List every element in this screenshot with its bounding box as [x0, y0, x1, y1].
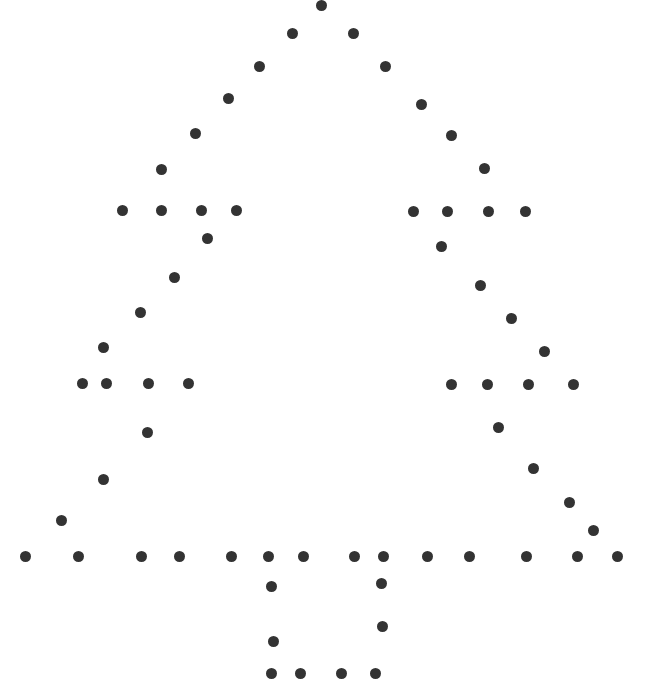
- scatter-dot: [378, 551, 389, 562]
- scatter-dot: [156, 164, 167, 175]
- scatter-dot: [521, 551, 532, 562]
- scatter-dot: [156, 205, 167, 216]
- scatter-dot: [77, 378, 88, 389]
- scatter-dot: [169, 272, 180, 283]
- scatter-dot: [422, 551, 433, 562]
- scatter-dot: [98, 342, 109, 353]
- scatter-dot: [416, 99, 427, 110]
- scatter-dot: [564, 497, 575, 508]
- scatter-dot: [349, 551, 360, 562]
- scatter-dot: [223, 93, 234, 104]
- scatter-dot: [464, 551, 475, 562]
- scatter-dot: [446, 130, 457, 141]
- scatter-dot: [408, 206, 419, 217]
- scatter-dot: [348, 28, 359, 39]
- scatter-dot: [190, 128, 201, 139]
- scatter-dot: [316, 0, 327, 11]
- scatter-dot: [254, 61, 265, 72]
- scatter-dot: [266, 581, 277, 592]
- scatter-dot: [143, 378, 154, 389]
- scatter-dot: [588, 525, 599, 536]
- scatter-dot: [523, 379, 534, 390]
- scatter-dot: [612, 551, 623, 562]
- scatter-dot: [287, 28, 298, 39]
- scatter-dot: [506, 313, 517, 324]
- scatter-dot: [568, 379, 579, 390]
- scatter-dot: [528, 463, 539, 474]
- scatter-dot: [142, 427, 153, 438]
- scatter-dot: [370, 668, 381, 679]
- dot-pattern-canvas: [0, 0, 665, 691]
- scatter-dot: [268, 636, 279, 647]
- scatter-dot: [226, 551, 237, 562]
- scatter-dot: [520, 206, 531, 217]
- scatter-dot: [231, 205, 242, 216]
- scatter-dot: [298, 551, 309, 562]
- scatter-dot: [572, 551, 583, 562]
- scatter-dot: [263, 551, 274, 562]
- scatter-dot: [479, 163, 490, 174]
- scatter-dot: [266, 668, 277, 679]
- scatter-dot: [446, 379, 457, 390]
- scatter-dot: [376, 578, 387, 589]
- scatter-dot: [98, 474, 109, 485]
- scatter-dot: [56, 515, 67, 526]
- scatter-dot: [380, 61, 391, 72]
- scatter-dot: [174, 551, 185, 562]
- scatter-dot: [475, 280, 486, 291]
- scatter-dot: [136, 551, 147, 562]
- scatter-dot: [20, 551, 31, 562]
- scatter-dot: [493, 422, 504, 433]
- scatter-dot: [73, 551, 84, 562]
- scatter-dot: [377, 621, 388, 632]
- scatter-dot: [442, 206, 453, 217]
- scatter-dot: [135, 307, 146, 318]
- scatter-dot: [101, 378, 112, 389]
- scatter-dot: [117, 205, 128, 216]
- scatter-dot: [336, 668, 347, 679]
- scatter-dot: [483, 206, 494, 217]
- scatter-dot: [539, 346, 550, 357]
- scatter-dot: [295, 668, 306, 679]
- scatter-dot: [202, 233, 213, 244]
- scatter-dot: [482, 379, 493, 390]
- scatter-dot: [196, 205, 207, 216]
- scatter-dot: [183, 378, 194, 389]
- scatter-dot: [436, 241, 447, 252]
